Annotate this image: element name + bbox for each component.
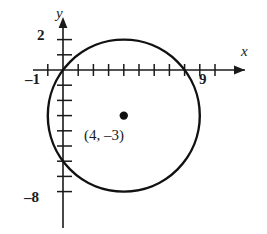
x-tick-label-minus-1: –1	[25, 72, 40, 87]
x-tick-label-9: 9	[199, 72, 207, 87]
y-tick-label-2: 2	[37, 28, 45, 43]
y-axis-group	[59, 17, 68, 228]
y-tick-label-minus-8: –8	[24, 190, 39, 205]
center-point-label: (4, –3)	[84, 128, 124, 143]
y-axis-label: y	[56, 6, 63, 21]
x-axis-arrow-icon	[234, 66, 245, 75]
x-axis-label: x	[241, 44, 248, 59]
center-point-marker	[120, 111, 128, 119]
circle-graph-figure: y x 2 –1 9 –8 (4, –3)	[0, 0, 267, 234]
